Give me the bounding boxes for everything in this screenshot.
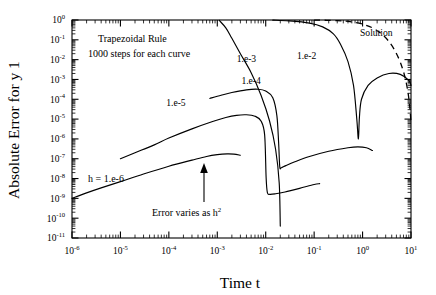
error-plot-figure: 10-610-510-410-310-210-1100101 10-1110-1…	[0, 0, 436, 295]
x-tick-labels: 10-610-510-410-310-210-1100101	[65, 244, 418, 256]
tick-label: 10-3	[210, 244, 226, 256]
curve-label-1-e-3: 1.e-3	[237, 53, 257, 64]
tick-label: 101	[405, 244, 418, 256]
y-tick-labels: 10-1110-1010-910-810-710-610-510-410-310…	[47, 13, 66, 243]
tick-label: 100	[52, 13, 66, 25]
tick-label: 10-2	[50, 53, 65, 65]
tick-label: 10-3	[50, 73, 66, 85]
curve-label-1-e-5: 1.e-5	[166, 97, 186, 108]
tick-label: 10-6	[65, 244, 81, 256]
y-axis-title: Absolute Error for y 1	[5, 61, 22, 199]
tick-label: 10-4	[50, 92, 66, 104]
tick-label: 10-5	[113, 244, 129, 256]
tick-label: 10-5	[50, 112, 66, 124]
annotation-error-order: Error varies as h2	[152, 206, 222, 218]
tick-label: 10-11	[47, 231, 65, 243]
tick-label: 10-6	[50, 132, 66, 144]
tick-label: 10-7	[50, 152, 66, 164]
annotation-method: Trapezoidal Rule	[98, 33, 167, 44]
curve-label-1-e-2: 1.e-2	[297, 50, 317, 61]
curve-label-1-e-4: 1.e-4	[241, 75, 261, 86]
annotation-h-value: h = 1.e-6	[88, 173, 124, 184]
error-order-arrow-head	[200, 163, 208, 173]
curve-label-solution: Solution	[360, 27, 393, 38]
tick-label: 10-8	[50, 172, 66, 184]
annotation-steps: 1000 steps for each curve	[88, 48, 191, 59]
tick-label: 10-1	[50, 33, 65, 45]
tick-label: 10-9	[50, 192, 66, 204]
tick-label: 10-2	[258, 244, 273, 256]
curve-h-1-e-3	[219, 20, 280, 226]
tick-label: 10-10	[47, 211, 66, 223]
tick-label: 10-4	[161, 244, 177, 256]
figure-page: 10-610-510-410-310-210-1100101 10-1110-1…	[0, 0, 436, 295]
x-axis-title: Time t	[220, 274, 261, 291]
curve-h-1-e-4	[210, 89, 373, 169]
tick-label: 10-1	[307, 244, 322, 256]
tick-label: 100	[356, 244, 370, 256]
